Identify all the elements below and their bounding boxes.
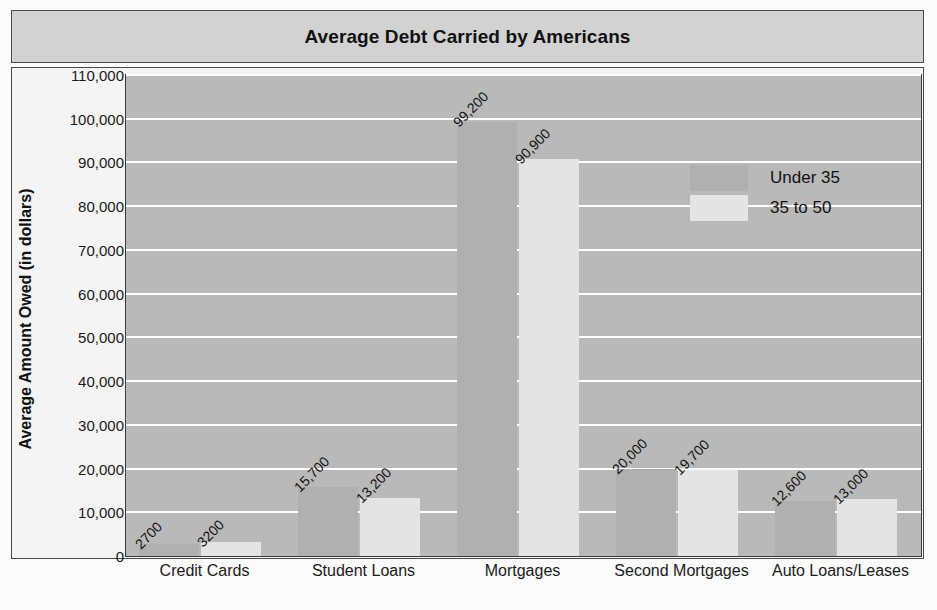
y-axis-tick-label: 60,000 — [48, 285, 124, 302]
y-axis-tick-label: 10,000 — [48, 504, 124, 521]
chart-title-band: Average Debt Carried by Americans — [11, 10, 924, 63]
bar — [837, 499, 897, 556]
y-axis-tick-label: 80,000 — [48, 198, 124, 215]
y-axis-tick-label: 40,000 — [48, 373, 124, 390]
bar — [775, 501, 835, 556]
y-axis-tick-label: 20,000 — [48, 460, 124, 477]
y-axis-tick-label: 0 — [48, 548, 124, 565]
y-axis-tick-label: 90,000 — [48, 154, 124, 171]
bar — [678, 470, 738, 556]
y-axis-tick-label: 50,000 — [48, 329, 124, 346]
y-axis-tick-label: 100,000 — [48, 110, 124, 127]
x-axis-tick-label: Second Mortgages — [614, 562, 748, 580]
plot-area: 2700320015,70013,20099,20090,90020,00019… — [125, 74, 922, 557]
legend-swatch-icon-under-35 — [690, 165, 748, 191]
gridline — [126, 74, 921, 76]
y-axis-tick-label: 110,000 — [48, 67, 124, 84]
chart-container: Average Debt Carried by Americans Averag… — [0, 0, 937, 610]
x-axis-tick-label: Credit Cards — [160, 562, 250, 580]
y-axis-tick-label: 70,000 — [48, 241, 124, 258]
chart-legend: Under 35 35 to 50 — [690, 163, 910, 223]
x-axis-tick-label: Student Loans — [312, 562, 415, 580]
bar — [519, 159, 579, 556]
y-axis-tick-label: 30,000 — [48, 416, 124, 433]
gridline — [126, 118, 921, 120]
y-axis-tick-labels: 010,00020,00030,00040,00050,00060,00070,… — [40, 0, 124, 610]
legend-swatch-icon-35-to-50 — [690, 195, 748, 221]
bar — [298, 487, 358, 556]
legend-label-under-35: Under 35 — [770, 168, 840, 188]
x-axis-tick-label: Mortgages — [485, 562, 561, 580]
x-axis-tick-labels: Credit CardsStudent LoansMortgagesSecond… — [125, 562, 922, 592]
bar — [457, 122, 517, 556]
x-axis-tick-label: Auto Loans/Leases — [772, 562, 909, 580]
chart-title: Average Debt Carried by Americans — [304, 26, 630, 48]
legend-item-35-to-50: 35 to 50 — [690, 193, 910, 223]
bar — [616, 469, 676, 556]
legend-item-under-35: Under 35 — [690, 163, 910, 193]
bar — [360, 498, 420, 556]
legend-label-35-to-50: 35 to 50 — [770, 198, 831, 218]
